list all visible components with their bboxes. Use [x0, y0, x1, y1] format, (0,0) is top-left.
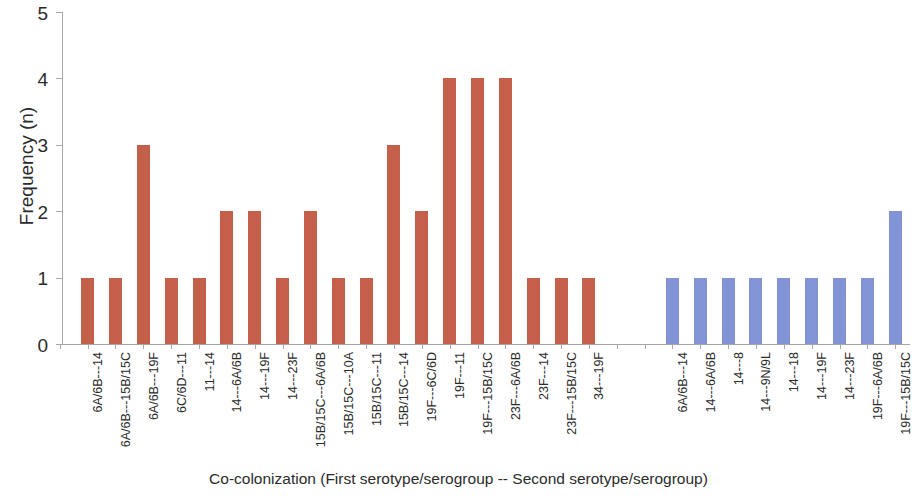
x-axis-tick [645, 344, 646, 349]
x-axis-tick [338, 344, 339, 349]
bar [833, 278, 846, 344]
x-axis-tick [199, 344, 200, 349]
bar [387, 145, 400, 344]
x-axis-tick-label: 6A/6B---19F [148, 352, 161, 420]
bar [360, 278, 373, 344]
bar [527, 278, 540, 344]
x-axis-tick-label: 15B/15C---10A [343, 352, 356, 435]
bar [749, 278, 762, 344]
x-axis-tick [756, 344, 757, 349]
x-axis-tick [283, 344, 284, 349]
x-axis-tick-label: 23F---6A/6B [510, 352, 523, 420]
x-axis-tick [700, 344, 701, 349]
x-axis-tick-label: 14---19F [816, 352, 829, 400]
bar [471, 78, 484, 344]
y-axis-tick: 4 [56, 78, 62, 79]
x-axis-tick-label: 14---23F [844, 352, 857, 400]
bar [861, 278, 874, 344]
x-axis-tick [589, 344, 590, 349]
bar-chart: Frequency (n) 012345 6A/6B---146A/6B---1… [0, 0, 917, 498]
x-axis-tick [143, 344, 144, 349]
x-axis-tick-label: 6A/6B---14 [677, 352, 690, 412]
bar [582, 278, 595, 344]
x-axis-tick-label: 14---19F [259, 352, 272, 400]
y-axis-tick: 3 [56, 145, 62, 146]
x-axis-tick-label: 14---9N/9L [760, 352, 773, 412]
y-axis-tick-label: 2 [37, 202, 48, 221]
y-axis-tick-label: 1 [37, 269, 48, 288]
x-axis-ticks [62, 344, 910, 349]
bar [248, 211, 261, 344]
x-axis-tick-label: 6A/6B---14 [92, 352, 105, 412]
x-axis-tick [366, 344, 367, 349]
bar [555, 278, 568, 344]
x-axis-tick-label: 15B/15C---6A/6B [315, 352, 328, 447]
y-axis-tick: 1 [56, 278, 62, 279]
bar [889, 211, 902, 344]
x-axis-tick-label: 19F---6A/6B [872, 352, 885, 420]
x-axis-tick [895, 344, 896, 349]
x-axis-tick-label: 6C/6D---11 [176, 352, 189, 413]
x-axis-tick [227, 344, 228, 349]
bar [304, 211, 317, 344]
bar [276, 278, 289, 344]
x-axis-tick [728, 344, 729, 349]
bar [137, 145, 150, 344]
x-axis-tick [840, 344, 841, 349]
x-axis-tick [617, 344, 618, 349]
bar [499, 78, 512, 344]
x-axis-tick [60, 344, 61, 349]
y-axis-tick: 5 [56, 12, 62, 13]
x-axis-tick-label: 23F---14 [538, 352, 551, 400]
x-axis-tick [394, 344, 395, 349]
x-axis-tick [784, 344, 785, 349]
x-axis-tick-label: 14---23F [287, 352, 300, 400]
x-axis-tick [115, 344, 116, 349]
bar [415, 211, 428, 344]
x-axis-tick-label: 19F---11 [454, 352, 467, 399]
x-axis-tick-label: 19F---6C/6D [426, 352, 439, 421]
bar [193, 278, 206, 344]
x-axis-tick [533, 344, 534, 349]
x-axis-tick-label: 15B/15C---14 [398, 352, 411, 427]
x-axis-tick-label: 15B/15C---11 [371, 352, 384, 426]
x-axis-labels: 6A/6B---146A/6B---15B/15C6A/6B---19F6C/6… [62, 352, 910, 460]
x-axis-tick [450, 344, 451, 349]
x-axis-tick-label: 23F---15B/15C [566, 352, 579, 435]
x-axis-tick-label: 14---6A/6B [231, 352, 244, 412]
x-axis-tick-label: 11---14 [204, 352, 217, 391]
x-axis-tick [561, 344, 562, 349]
bar [109, 278, 122, 344]
plot-area: 012345 [62, 12, 910, 344]
y-axis-title: Frequency (n) [16, 66, 38, 266]
x-axis-tick [478, 344, 479, 349]
bar [694, 278, 707, 344]
x-axis-tick [672, 344, 673, 349]
y-axis-tick-label: 5 [37, 3, 48, 22]
x-axis-tick [812, 344, 813, 349]
x-axis-tick [422, 344, 423, 349]
bar [443, 78, 456, 344]
bar [805, 278, 818, 344]
bar [220, 211, 233, 344]
x-axis-tick-label: 14---8 [733, 352, 746, 385]
x-axis-tick-label: 14---18 [788, 352, 801, 392]
bar [666, 278, 679, 344]
y-axis-tick: 2 [56, 211, 62, 212]
y-axis-tick-label: 3 [37, 136, 48, 155]
x-axis-tick-label: 34---19F [593, 352, 606, 400]
bar [777, 278, 790, 344]
x-axis-title: Co-colonization (First serotype/serogrou… [0, 470, 917, 488]
x-axis-tick [310, 344, 311, 349]
y-axis-tick-label: 4 [37, 69, 48, 88]
bar [81, 278, 94, 344]
bar [722, 278, 735, 344]
y-axis-tick-label: 0 [37, 335, 48, 354]
x-axis-tick [867, 344, 868, 349]
x-axis-tick-label: 14---6A/6B [705, 352, 718, 412]
x-axis-tick-label: 19F---15B/15C [900, 352, 913, 435]
x-axis-tick [505, 344, 506, 349]
x-axis-tick [255, 344, 256, 349]
x-axis-tick-label: 19F---15B/15C [482, 352, 495, 435]
x-axis-tick [88, 344, 89, 349]
